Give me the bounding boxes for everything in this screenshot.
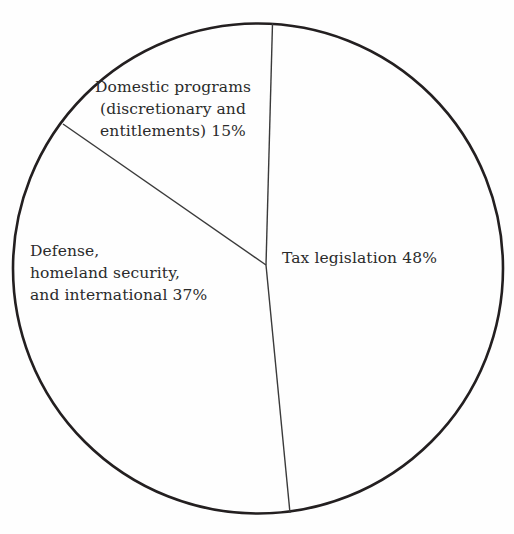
pie-chart-figure: Domestic programs (discretionary and ent… bbox=[0, 0, 514, 534]
pie-divider-top bbox=[266, 24, 273, 265]
pie-divider-bottom bbox=[266, 265, 290, 513]
pie-slice-label-tax-legislation: Tax legislation 48% bbox=[282, 247, 482, 269]
pie-slice-label-domestic-programs: Domestic programs (discretionary and ent… bbox=[78, 76, 268, 142]
pie-slice-label-defense: Defense, homeland security, and internat… bbox=[30, 240, 250, 306]
